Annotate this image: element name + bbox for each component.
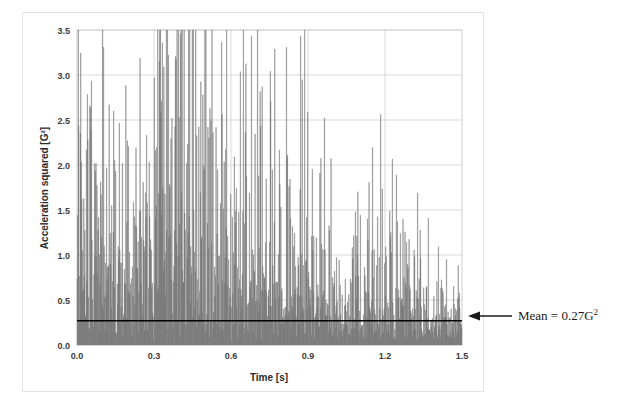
- x-tick-label: 0.3: [148, 351, 161, 361]
- mean-annotation-arrow: [468, 312, 512, 321]
- mean-annotation-main: Mean = 0.27G: [518, 308, 594, 323]
- y-tick-label: 0.5: [57, 296, 70, 306]
- y-tick-label: 3.5: [57, 26, 70, 36]
- y-tick-label: 2.5: [57, 116, 70, 126]
- y-axis-tick-labels: 0.00.51.01.52.02.53.03.5: [57, 26, 70, 351]
- x-tick-label: 1.5: [456, 351, 469, 361]
- x-axis-tick-labels: 0.00.30.60.91.21.5: [71, 351, 469, 361]
- x-axis-title: Time [s]: [250, 372, 288, 383]
- y-tick-label: 1.0: [57, 251, 70, 261]
- mean-annotation-superscript: 2: [594, 307, 599, 317]
- y-tick-label: 0.0: [57, 341, 70, 351]
- y-tick-label: 1.5: [57, 206, 70, 216]
- y-tick-label: 3.0: [57, 71, 70, 81]
- y-tick-label: 2.0: [57, 161, 70, 171]
- acceleration-vs-time-chart: 0.00.51.01.52.02.53.03.5 0.00.30.60.91.2…: [0, 0, 622, 412]
- mean-annotation-label: Mean = 0.27G2: [518, 307, 598, 323]
- x-tick-label: 0.0: [71, 351, 84, 361]
- x-tick-label: 0.6: [225, 351, 238, 361]
- x-tick-label: 1.2: [379, 351, 392, 361]
- y-axis-title: Acceleration squared [G²]: [39, 127, 50, 249]
- x-tick-label: 0.9: [302, 351, 315, 361]
- figure-root: 0.00.51.01.52.02.53.03.5 0.00.30.60.91.2…: [0, 0, 622, 412]
